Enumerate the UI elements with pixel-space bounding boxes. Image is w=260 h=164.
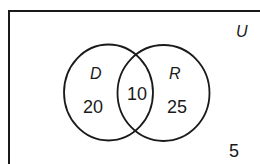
set-d-only-count: 20 (83, 97, 103, 117)
set-r-only-count: 25 (167, 97, 187, 117)
venn-diagram: U D 20 10 R 25 5 (0, 0, 260, 164)
set-d-label: D (90, 65, 102, 82)
set-r-label: R (169, 65, 181, 82)
intersection-count: 10 (127, 84, 147, 104)
universal-label: U (236, 23, 248, 40)
outside-count: 5 (229, 141, 239, 161)
